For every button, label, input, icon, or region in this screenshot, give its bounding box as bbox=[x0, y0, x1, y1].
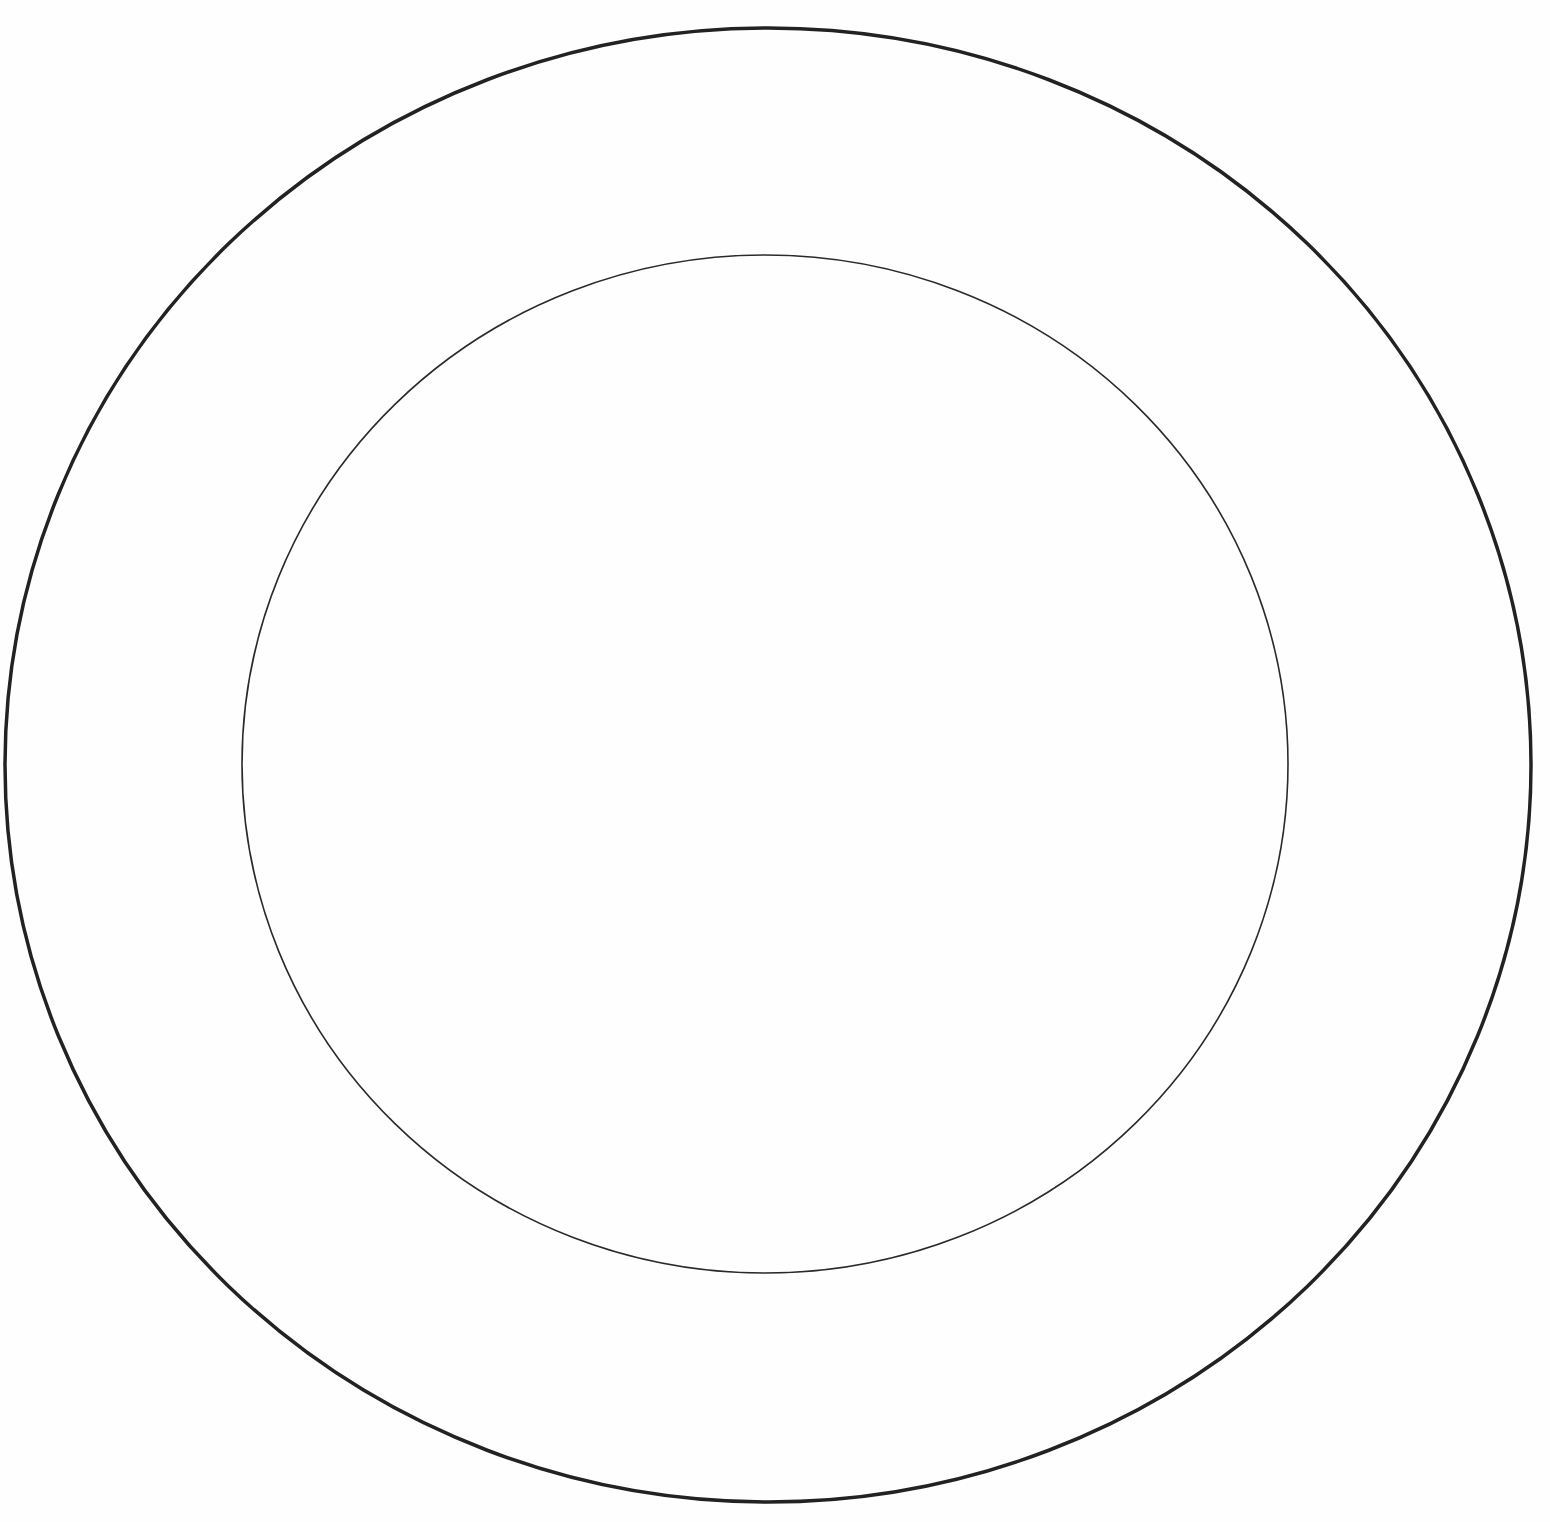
concentric-circles-drawing bbox=[0, 0, 1550, 1522]
outer-circle bbox=[5, 28, 1531, 1502]
ring-diagram bbox=[0, 0, 1550, 1522]
inner-circle bbox=[242, 255, 1288, 1273]
